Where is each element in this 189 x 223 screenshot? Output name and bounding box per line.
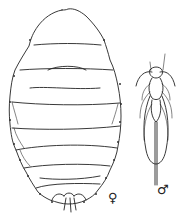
segment-line bbox=[30, 87, 100, 88]
female-insect bbox=[9, 9, 122, 212]
side-fold bbox=[112, 104, 118, 124]
segment-line bbox=[12, 102, 120, 105]
male-leg bbox=[142, 84, 170, 100]
segment-line bbox=[24, 164, 110, 168]
male-insect bbox=[136, 54, 175, 185]
segment-line bbox=[34, 44, 101, 46]
male-thorax bbox=[149, 78, 163, 100]
side-fold bbox=[14, 128, 24, 148]
segment-line bbox=[20, 69, 113, 71]
male-head bbox=[149, 67, 162, 78]
side-fold bbox=[12, 102, 18, 124]
male-wing bbox=[144, 96, 168, 164]
segment-line bbox=[16, 145, 117, 150]
male-abdomen bbox=[151, 100, 161, 122]
male-style bbox=[155, 122, 157, 185]
marginal-setae bbox=[9, 39, 122, 203]
female-symbol: ♀ bbox=[108, 191, 118, 204]
anal-setae bbox=[64, 198, 76, 212]
segment-line bbox=[36, 183, 100, 188]
anal-lobes bbox=[52, 193, 86, 200]
male-symbol: ♂ bbox=[157, 183, 169, 196]
segment-line bbox=[40, 176, 100, 179]
segment-line bbox=[12, 126, 120, 129]
female-body-outline bbox=[9, 9, 121, 204]
